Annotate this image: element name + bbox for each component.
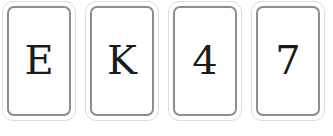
card-face: E xyxy=(7,6,71,116)
card-face: K xyxy=(90,6,154,116)
card-rank-label: 7 xyxy=(275,40,300,80)
playing-card-4[interactable]: 7 xyxy=(251,1,325,121)
playing-card-3[interactable]: 4 xyxy=(168,1,242,121)
card-face: 7 xyxy=(256,6,320,116)
playing-card-2[interactable]: K xyxy=(85,1,159,121)
playing-card-1[interactable]: E xyxy=(2,1,76,121)
card-rank-label: K xyxy=(107,40,137,80)
card-face: 4 xyxy=(173,6,237,116)
card-rank-label: E xyxy=(24,40,53,80)
card-row: E K 4 7 xyxy=(0,0,333,136)
card-rank-label: 4 xyxy=(192,40,217,80)
